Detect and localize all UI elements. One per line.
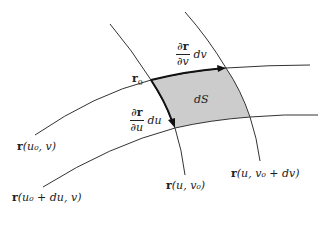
args: (u, v₀) xyxy=(172,179,205,192)
label-dS-text: dS xyxy=(194,93,209,106)
label-curve-r-u-v0-plus-dv: r(u, v₀ + dv) xyxy=(231,168,300,179)
label-dr-du-du: ∂r ∂u du xyxy=(130,107,162,133)
denominator: ∂v xyxy=(177,55,189,68)
args: (u₀ + du, v) xyxy=(18,191,82,204)
label-dr-dv-dv: ∂r ∂v dv xyxy=(176,41,207,67)
label-curve-r-u0-v: r(u₀, v) xyxy=(17,141,56,152)
args: (u, v₀ + dv) xyxy=(237,167,300,180)
args: (u₀, v) xyxy=(23,140,56,153)
label-r0-sub: 0 xyxy=(138,78,143,87)
bold-r: r xyxy=(183,40,189,53)
label-dS: dS xyxy=(194,94,209,105)
differential: du xyxy=(148,114,162,127)
label-curve-r-u-v0: r(u, v₀) xyxy=(166,180,205,191)
denominator: ∂u xyxy=(130,121,143,134)
label-curve-r-u0-plus-du-v: r(u₀ + du, v) xyxy=(12,192,81,203)
label-r0: r0 xyxy=(132,73,143,87)
bold-r: r xyxy=(137,106,143,119)
differential: dv xyxy=(194,48,207,61)
